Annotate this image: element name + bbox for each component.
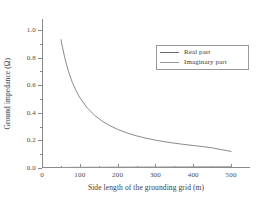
plot-area: 0.00.20.40.60.81.0 0100200300400500 [42,19,250,168]
chart-legend: Real part Imaginary part [156,45,249,70]
legend-item-imaginary-part: Imaginary part [160,57,245,67]
y-tick-label: 0.6 [27,82,36,89]
y-tick-label: 0.2 [27,137,36,144]
y-tick-label: 0.4 [27,109,36,116]
y-tick-major [38,168,42,169]
x-tick-label: 100 [74,172,85,179]
x-tick-label: 400 [188,172,199,179]
x-tick-label: 200 [112,172,123,179]
y-tick-label: 0.0 [27,165,36,172]
legend-swatch-icon [160,52,179,53]
y-tick-label: 1.0 [27,27,36,34]
legend-swatch-icon [160,62,179,63]
series-curves [42,19,250,168]
x-tick-label: 0 [40,172,44,179]
series-line-imaginary-part [61,166,231,167]
x-tick-label: 500 [226,172,237,179]
x-tick-label: 300 [150,172,161,179]
y-axis-title-text: Ground impedance (Ω) [4,58,12,130]
legend-label: Imaginary part [184,59,227,66]
chart-screenshot: Ground impedance (Ω) 0.00.20.40.60.81.0 … [0,0,261,198]
y-axis-title: Ground impedance (Ω) [2,19,13,168]
x-axis-title: Side length of the grounding grid (m) [42,184,250,192]
legend-label: Real part [184,49,210,56]
y-tick-label: 0.8 [27,54,36,61]
legend-item-real-part: Real part [160,47,245,57]
